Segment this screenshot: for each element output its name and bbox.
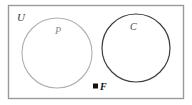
set-p-label: P	[54, 25, 61, 36]
set-c-label: C	[130, 21, 137, 32]
point-f-marker-icon	[93, 84, 98, 89]
universal-set-label: U	[17, 11, 26, 23]
venn-diagram-canvas: U P C F	[0, 0, 192, 105]
venn-diagram-svg: U P C F	[0, 0, 192, 105]
point-f-label: F	[99, 81, 107, 92]
